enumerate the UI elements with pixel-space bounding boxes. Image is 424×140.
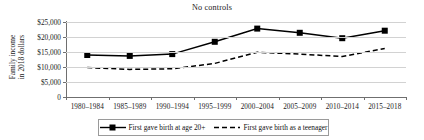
y-axis-title-line-1: Family income xyxy=(8,35,17,80)
x-tick-label: 1990–1994 xyxy=(156,103,189,111)
x-tick-mark xyxy=(151,97,152,100)
chart-figure: No controls Family income in 2018 dollar… xyxy=(0,0,424,140)
y-tick-label: 0 xyxy=(57,93,61,102)
y-axis-title: Family income in 2018 dollars xyxy=(0,14,60,100)
legend-item-teenager[interactable]: First gave birth as a teenager xyxy=(214,123,327,132)
y-tick-label: $20,000 xyxy=(37,33,61,42)
x-tick-mark xyxy=(364,97,365,100)
legend-dashed-line-icon xyxy=(214,123,240,132)
y-tick-label: $15,000 xyxy=(37,48,61,57)
y-tick-mark xyxy=(63,52,66,53)
x-tick-label: 2005–2009 xyxy=(283,103,316,111)
series-layer xyxy=(66,22,406,97)
plot-area: 0$5,000$10,000$15,000$20,000$25,0001980–… xyxy=(66,22,406,97)
gridline xyxy=(66,67,406,68)
chart-legend: First gave birth at age 20+ First gave b… xyxy=(98,119,329,136)
gridline xyxy=(66,22,406,23)
x-tick-label: 2015–2018 xyxy=(368,103,401,111)
legend-label-age-20-plus: First gave birth at age 20+ xyxy=(129,123,206,132)
legend-item-age-20-plus[interactable]: First gave birth at age 20+ xyxy=(100,123,206,132)
y-axis-title-line-2: in 2018 dollars xyxy=(17,35,26,80)
y-tick-mark xyxy=(63,67,66,68)
chart-title: No controls xyxy=(0,3,424,12)
gridline xyxy=(66,52,406,53)
x-tick-mark xyxy=(194,97,195,100)
gridline xyxy=(66,37,406,38)
data-point-marker xyxy=(254,26,260,32)
data-point-marker xyxy=(297,30,303,36)
x-tick-mark xyxy=(109,97,110,100)
x-tick-label: 2010–2014 xyxy=(326,103,359,111)
x-tick-label: 1995–1999 xyxy=(198,103,231,111)
data-point-marker xyxy=(212,39,218,45)
x-tick-mark xyxy=(236,97,237,100)
y-tick-mark xyxy=(63,37,66,38)
x-tick-mark xyxy=(406,97,407,100)
y-tick-label: $25,000 xyxy=(37,18,61,27)
legend-label-teenager: First gave birth as a teenager xyxy=(243,123,327,132)
x-tick-mark xyxy=(279,97,280,100)
y-tick-label: $10,000 xyxy=(37,63,61,72)
gridline xyxy=(66,82,406,83)
data-point-marker xyxy=(127,53,133,59)
y-tick-label: $5,000 xyxy=(41,78,61,87)
x-tick-label: 1980–1984 xyxy=(71,103,104,111)
x-tick-label: 1985–1989 xyxy=(113,103,146,111)
x-tick-label: 2000–2004 xyxy=(241,103,274,111)
y-tick-mark xyxy=(63,22,66,23)
data-point-marker xyxy=(382,28,388,34)
legend-solid-square-line-icon xyxy=(100,123,126,132)
x-tick-mark xyxy=(66,97,67,100)
y-tick-mark xyxy=(63,82,66,83)
x-tick-mark xyxy=(321,97,322,100)
